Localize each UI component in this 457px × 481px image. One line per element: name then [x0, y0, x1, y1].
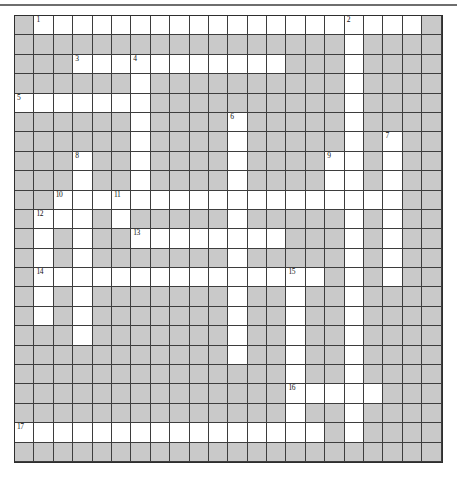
crossword-cell[interactable] — [364, 16, 383, 35]
crossword-cell[interactable] — [325, 171, 344, 190]
crossword-cell[interactable]: 14 — [34, 268, 53, 287]
crossword-cell[interactable] — [228, 191, 247, 210]
crossword-cell[interactable] — [93, 191, 112, 210]
crossword-cell[interactable] — [267, 191, 286, 210]
crossword-cell[interactable] — [170, 268, 189, 287]
crossword-cell[interactable] — [73, 423, 92, 442]
crossword-cell[interactable] — [345, 346, 364, 365]
crossword-cell[interactable] — [267, 16, 286, 35]
crossword-cell[interactable] — [54, 16, 73, 35]
crossword-cell[interactable] — [131, 191, 150, 210]
crossword-cell[interactable] — [345, 384, 364, 403]
crossword-cell[interactable] — [286, 423, 305, 442]
crossword-cell[interactable] — [151, 229, 170, 248]
crossword-cell[interactable] — [267, 268, 286, 287]
crossword-cell[interactable] — [112, 268, 131, 287]
crossword-cell[interactable] — [93, 16, 112, 35]
crossword-cell[interactable] — [151, 55, 170, 74]
crossword-cell[interactable] — [170, 16, 189, 35]
crossword-cell[interactable] — [248, 16, 267, 35]
crossword-cell[interactable] — [383, 191, 402, 210]
crossword-cell[interactable] — [73, 229, 92, 248]
crossword-cell[interactable] — [151, 16, 170, 35]
crossword-cell[interactable] — [209, 268, 228, 287]
crossword-cell[interactable] — [325, 16, 344, 35]
crossword-cell[interactable] — [209, 229, 228, 248]
crossword-cell[interactable] — [131, 94, 150, 113]
crossword-cell[interactable] — [93, 94, 112, 113]
crossword-cell[interactable] — [93, 268, 112, 287]
crossword-cell[interactable] — [73, 249, 92, 268]
crossword-cell[interactable] — [190, 55, 209, 74]
crossword-cell[interactable] — [228, 307, 247, 326]
crossword-cell[interactable] — [248, 191, 267, 210]
crossword-cell[interactable] — [248, 55, 267, 74]
crossword-cell[interactable] — [190, 191, 209, 210]
crossword-cell[interactable] — [112, 210, 131, 229]
crossword-cell[interactable] — [112, 55, 131, 74]
crossword-cell[interactable] — [286, 307, 305, 326]
crossword-cell[interactable] — [73, 191, 92, 210]
crossword-cell[interactable] — [34, 423, 53, 442]
crossword-cell[interactable] — [73, 307, 92, 326]
crossword-cell[interactable] — [54, 423, 73, 442]
crossword-cell[interactable] — [112, 94, 131, 113]
crossword-cell[interactable]: 16 — [286, 384, 305, 403]
crossword-cell[interactable] — [170, 55, 189, 74]
crossword-cell[interactable] — [345, 55, 364, 74]
crossword-cell[interactable] — [34, 94, 53, 113]
crossword-cell[interactable]: 15 — [286, 268, 305, 287]
crossword-cell[interactable] — [383, 171, 402, 190]
crossword-cell[interactable] — [228, 346, 247, 365]
crossword-cell[interactable]: 17 — [15, 423, 34, 442]
crossword-cell[interactable] — [325, 384, 344, 403]
crossword-cell[interactable] — [306, 16, 325, 35]
crossword-cell[interactable] — [345, 287, 364, 306]
crossword-cell[interactable] — [228, 287, 247, 306]
crossword-cell[interactable] — [306, 423, 325, 442]
crossword-cell[interactable] — [131, 152, 150, 171]
crossword-cell[interactable] — [248, 423, 267, 442]
crossword-cell[interactable] — [73, 94, 92, 113]
crossword-cell[interactable] — [267, 423, 286, 442]
crossword-cell[interactable] — [228, 171, 247, 190]
crossword-cell[interactable] — [286, 16, 305, 35]
crossword-cell[interactable] — [190, 268, 209, 287]
crossword-cell[interactable] — [345, 94, 364, 113]
crossword-cell[interactable]: 3 — [73, 55, 92, 74]
crossword-cell[interactable] — [54, 94, 73, 113]
crossword-cell[interactable] — [383, 16, 402, 35]
crossword-cell[interactable]: 5 — [15, 94, 34, 113]
crossword-cell[interactable] — [112, 16, 131, 35]
crossword-cell[interactable] — [345, 171, 364, 190]
crossword-cell[interactable] — [170, 191, 189, 210]
crossword-cell[interactable] — [209, 16, 228, 35]
crossword-cell[interactable] — [383, 268, 402, 287]
crossword-cell[interactable]: 6 — [228, 113, 247, 132]
crossword-cell[interactable] — [190, 16, 209, 35]
crossword-cell[interactable] — [383, 210, 402, 229]
crossword-cell[interactable] — [112, 423, 131, 442]
crossword-cell[interactable] — [34, 249, 53, 268]
crossword-cell[interactable] — [306, 268, 325, 287]
crossword-cell[interactable] — [131, 268, 150, 287]
crossword-cell[interactable] — [345, 191, 364, 210]
crossword-cell[interactable] — [286, 404, 305, 423]
crossword-cell[interactable] — [73, 16, 92, 35]
crossword-cell[interactable] — [345, 229, 364, 248]
crossword-cell[interactable]: 7 — [383, 132, 402, 151]
crossword-cell[interactable] — [345, 113, 364, 132]
crossword-cell[interactable] — [190, 423, 209, 442]
crossword-cell[interactable] — [151, 191, 170, 210]
crossword-cell[interactable] — [267, 229, 286, 248]
crossword-cell[interactable] — [345, 152, 364, 171]
crossword-cell[interactable] — [228, 16, 247, 35]
crossword-cell[interactable] — [131, 171, 150, 190]
crossword-cell[interactable] — [345, 307, 364, 326]
crossword-cell[interactable] — [228, 229, 247, 248]
crossword-cell[interactable] — [73, 287, 92, 306]
crossword-cell[interactable] — [93, 423, 112, 442]
crossword-cell[interactable] — [286, 365, 305, 384]
crossword-cell[interactable] — [73, 210, 92, 229]
crossword-cell[interactable] — [286, 326, 305, 345]
